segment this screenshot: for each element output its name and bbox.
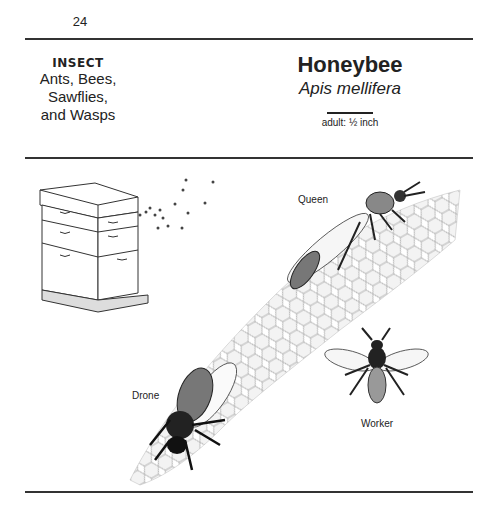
bottom-rule bbox=[25, 491, 473, 493]
drone-label: Drone bbox=[132, 390, 159, 401]
flying-bees-icon bbox=[139, 179, 215, 230]
queen-label: Queen bbox=[298, 194, 328, 205]
worker-label: Worker bbox=[361, 418, 393, 429]
beehive-icon bbox=[40, 183, 148, 312]
worker-bee-icon bbox=[323, 328, 431, 403]
honeybee-illustration bbox=[0, 0, 495, 515]
